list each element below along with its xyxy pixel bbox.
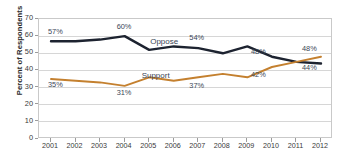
data-label-oppose-2004: 60% [117, 23, 132, 31]
data-label-oppose-2010: 48% [251, 48, 266, 56]
y-tick-mark [35, 103, 38, 104]
y-tick-label-0: 0 [11, 134, 33, 141]
chart-title-fragment [183, 0, 211, 3]
data-label-support-2007: 37% [189, 82, 204, 90]
y-tick-mark [35, 18, 38, 19]
x-tick-mark [148, 138, 149, 142]
y-tick-mark [35, 120, 38, 121]
x-tick-mark [50, 138, 51, 142]
x-tick-mark [222, 138, 223, 142]
chart-figure: Percent of Respondents 010203040506070 2… [0, 0, 342, 168]
x-tick-mark [173, 138, 174, 142]
y-tick-label-60: 60 [11, 31, 33, 38]
series-line-oppose [51, 36, 321, 63]
y-tick-mark [35, 86, 38, 87]
plot-area [38, 18, 332, 138]
x-tick-mark [124, 138, 125, 142]
y-tick-mark [35, 52, 38, 53]
series-label-support: Support [142, 71, 170, 80]
y-tick-label-40: 40 [11, 65, 33, 72]
x-tick-mark [197, 138, 198, 142]
data-label-support-2012: 48% [302, 45, 317, 53]
y-tick-mark [35, 138, 38, 139]
y-tick-mark [35, 35, 38, 36]
x-tick-mark [75, 138, 76, 142]
y-tick-label-50: 50 [11, 48, 33, 55]
y-tick-label-10: 10 [11, 117, 33, 124]
x-tick-mark [320, 138, 321, 142]
x-tick-mark [271, 138, 272, 142]
data-label-support-2004: 31% [117, 89, 132, 97]
y-tick-mark [35, 69, 38, 70]
data-label-oppose-2001: 57% [48, 28, 63, 36]
series-label-oppose: Oppose [150, 37, 178, 46]
x-tick-mark [295, 138, 296, 142]
series-line-support [51, 57, 321, 86]
data-label-oppose-2012: 44% [302, 64, 317, 72]
data-label-support-2001: 35% [48, 81, 63, 89]
data-label-support-2010: 42% [251, 71, 266, 79]
y-tick-label-30: 30 [11, 83, 33, 90]
x-tick-mark [99, 138, 100, 142]
x-tick-label-2012: 2012 [305, 142, 335, 150]
data-label-oppose-2007: 54% [189, 34, 204, 42]
y-tick-label-70: 70 [11, 14, 33, 21]
x-tick-mark [246, 138, 247, 142]
series-lines [39, 19, 333, 139]
y-tick-label-20: 20 [11, 100, 33, 107]
